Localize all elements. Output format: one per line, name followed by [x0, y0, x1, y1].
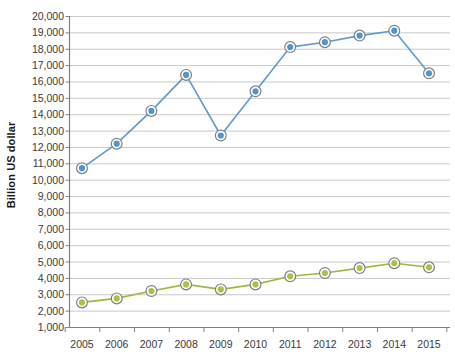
x-tick-label: 2013	[348, 339, 371, 350]
x-tick-label: 2005	[70, 339, 93, 350]
x-tick-label: 2009	[209, 339, 232, 350]
x-tick-label: 2010	[244, 339, 267, 350]
chart-container: Billion US dollar 1,0002,0003,0004,0005,…	[0, 0, 455, 359]
x-tick-label: 2015	[417, 339, 440, 350]
x-tick-label: 2008	[174, 339, 197, 350]
x-tick-label: 2014	[383, 339, 406, 350]
x-tick-label: 2011	[279, 339, 302, 350]
x-tick-label: 2012	[313, 339, 336, 350]
x-axis-tick-labels: 2005200620072008200920102011201220132014…	[0, 0, 455, 359]
x-tick-label: 2006	[105, 339, 128, 350]
x-tick-label: 2007	[140, 339, 163, 350]
